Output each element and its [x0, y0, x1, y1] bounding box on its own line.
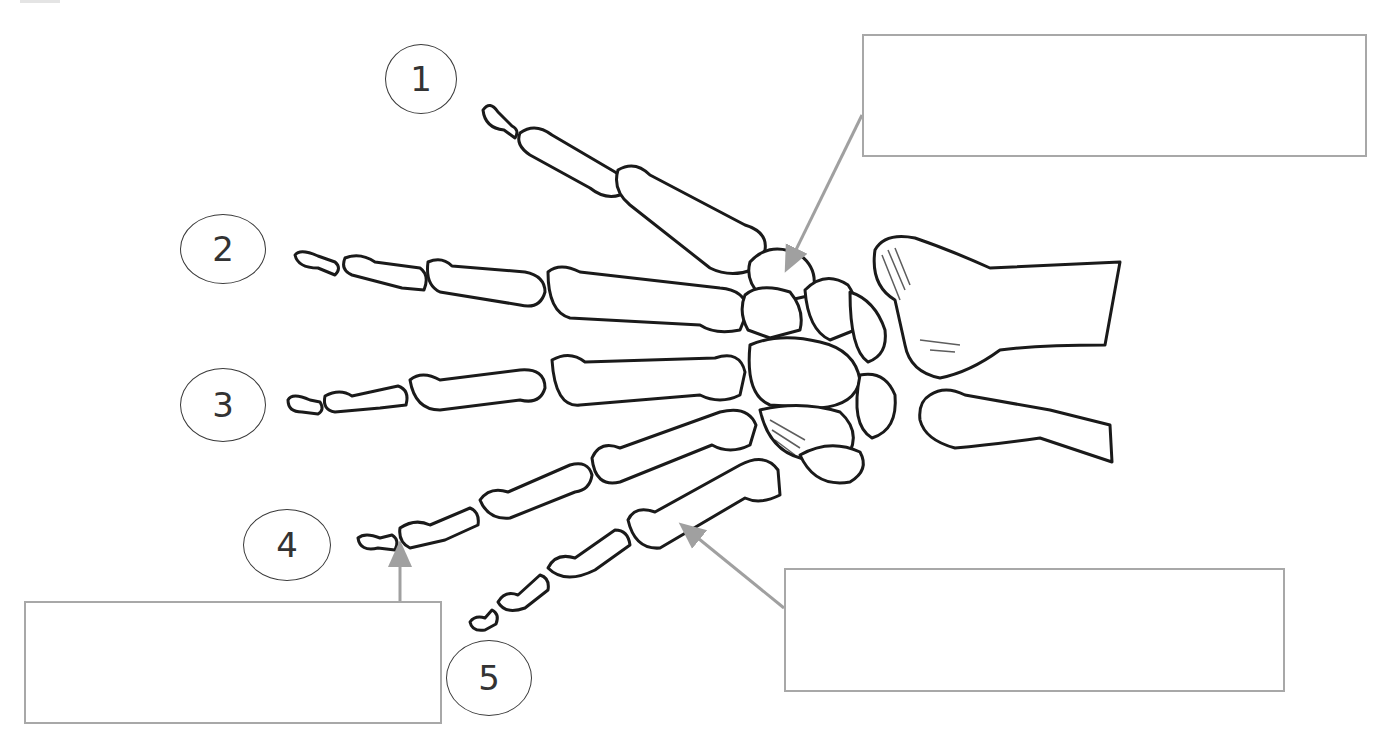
finger-number-2: 2 [180, 214, 266, 284]
carpal-bones [742, 249, 895, 483]
answer-box-metacarpal[interactable] [784, 568, 1285, 692]
forearm-bones [874, 237, 1120, 463]
finger-number-text: 4 [276, 525, 298, 565]
finger-number-4: 4 [243, 509, 331, 581]
finger-2-bones [295, 252, 748, 332]
answer-box-carpals[interactable] [862, 34, 1367, 157]
finger-5-bones [470, 460, 780, 631]
arrow-to-carpals [790, 115, 862, 262]
finger-number-5: 5 [446, 640, 532, 716]
finger-4-bones [358, 410, 756, 550]
finger-number-text: 2 [212, 229, 234, 269]
finger-number-text: 1 [410, 59, 432, 99]
finger-1-bones [483, 105, 765, 273]
finger-number-1: 1 [385, 44, 457, 114]
finger-3-bones [288, 355, 745, 414]
arrow-to-metacarpal [688, 530, 784, 608]
finger-number-3: 3 [180, 368, 266, 442]
worksheet-canvas: 1 2 3 4 5 [0, 0, 1394, 744]
finger-number-text: 5 [478, 658, 500, 698]
finger-number-text: 3 [212, 385, 234, 425]
answer-box-phalanx[interactable] [24, 601, 442, 724]
